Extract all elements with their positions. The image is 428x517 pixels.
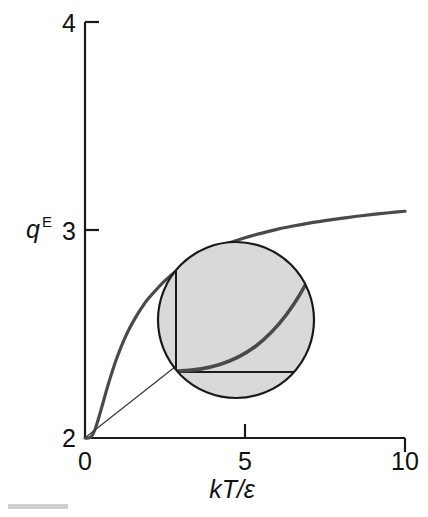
y-axis-title-symbol: q xyxy=(26,215,40,243)
einstein-heat-capacity-chart: 4 3 2 0 5 10 q E kT/ε xyxy=(0,0,428,517)
y-axis-title-superscript: E xyxy=(42,213,52,230)
y-tick-label-3: 3 xyxy=(62,217,76,245)
x-tick-label-5: 5 xyxy=(238,447,252,475)
origin-magnifier-inset xyxy=(158,242,316,398)
chart-figure: 4 3 2 0 5 10 q E kT/ε xyxy=(0,0,428,517)
scan-artifact-bar xyxy=(8,504,68,509)
y-tick-label-4: 4 xyxy=(62,9,76,37)
x-tick-label-0: 0 xyxy=(78,447,92,475)
x-axis-title: kT/ε xyxy=(209,475,256,503)
x-tick-label-10: 10 xyxy=(391,447,419,475)
y-tick-label-2: 2 xyxy=(62,424,76,452)
